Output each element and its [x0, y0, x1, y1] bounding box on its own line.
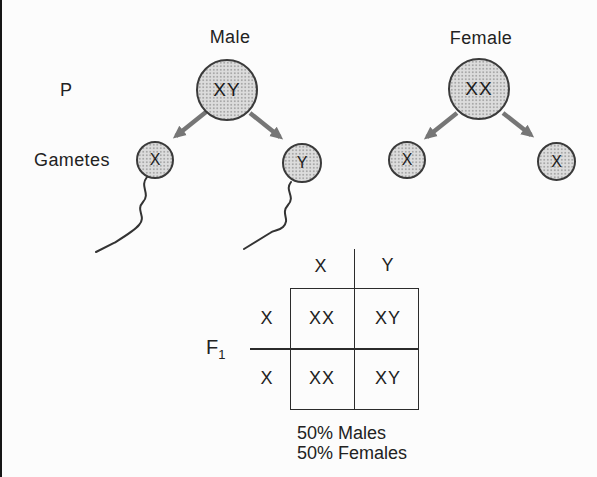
male-parent-cell: XY	[196, 59, 258, 121]
result-males: 50% Males	[297, 423, 407, 443]
female-gamete-left-arrow-icon	[427, 113, 457, 137]
punnett-col-header-x: X	[314, 256, 327, 277]
male-label: Male	[210, 27, 251, 48]
f1-base: F	[206, 336, 218, 358]
male-gamete-x: X	[136, 141, 174, 179]
female-label: Female	[450, 28, 512, 49]
sperm-tail-left-icon	[96, 177, 147, 252]
genetics-diagram: Male Female P Gametes XY XX X Y X X X Y …	[0, 0, 597, 477]
male-gamete-left-arrow-icon	[176, 112, 206, 136]
f1-generation-label: F1	[206, 336, 225, 362]
punnett-cell-xy-2: XY	[375, 368, 401, 389]
female-gamete-x1-label: X	[402, 151, 413, 169]
p-generation-label: P	[60, 80, 72, 101]
punnett-row-header-x1: X	[260, 308, 273, 329]
f1-subscript: 1	[218, 347, 225, 362]
punnett-cell-xx-1: XX	[309, 308, 335, 329]
female-gamete-x1: X	[388, 141, 426, 179]
female-genotype: XX	[465, 78, 492, 100]
female-parent-cell: XX	[448, 58, 510, 120]
punnett-cell-xy-1: XY	[375, 308, 401, 329]
female-gamete-x2-label: X	[551, 153, 562, 171]
sperm-tail-right-icon	[244, 182, 291, 249]
female-gamete-x2: X	[537, 142, 576, 181]
male-gamete-y-label: Y	[297, 154, 308, 172]
result-females: 50% Females	[297, 443, 407, 463]
male-gamete-right-arrow-icon	[250, 113, 280, 137]
male-gamete-y: Y	[282, 143, 322, 183]
punnett-horizontal-divider	[250, 348, 419, 350]
punnett-vertical-divider	[354, 249, 356, 410]
male-gamete-x-label: X	[150, 151, 161, 169]
punnett-cell-xx-2: XX	[309, 368, 335, 389]
male-genotype: XY	[213, 79, 240, 101]
female-gamete-right-arrow-icon	[503, 113, 531, 135]
punnett-row-header-x2: X	[260, 368, 273, 389]
result-summary: 50% Males 50% Females	[297, 423, 407, 463]
gametes-label: Gametes	[34, 150, 110, 171]
punnett-col-header-y: Y	[381, 255, 394, 276]
